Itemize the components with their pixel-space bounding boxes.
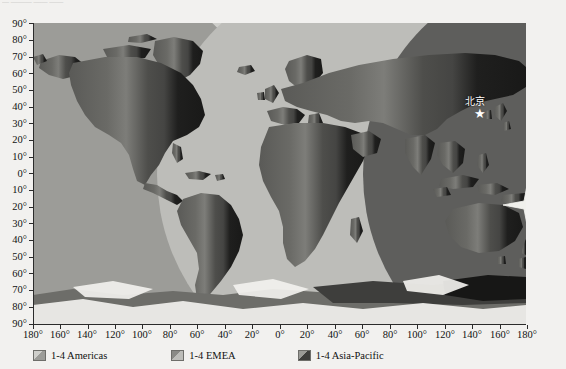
- map-legend: 1-4 Americas 1-4 EMEA 1-4 Asia-Pacific: [33, 347, 526, 363]
- legend-item-asia-pacific: 1-4 Asia-Pacific: [298, 350, 384, 361]
- map-plot-area: 北京 ★ 亚太地区卫星: [33, 23, 526, 325]
- y-tick-label: 80°: [1, 34, 27, 45]
- y-tick-label: 30°: [1, 218, 27, 229]
- x-tick-label: 180°: [510, 329, 544, 340]
- y-tick-label: 40°: [1, 234, 27, 245]
- y-tick-label: 10°: [1, 151, 27, 162]
- y-tick-label: 40°: [1, 101, 27, 112]
- y-tick-label: 30°: [1, 118, 27, 129]
- y-tick-label: 20°: [1, 201, 27, 212]
- y-tick-label: 90°: [1, 318, 27, 329]
- legend-item-emea: 1-4 EMEA: [171, 350, 235, 361]
- legend-label-americas: 1-4 Americas: [51, 350, 107, 361]
- y-tick-label: 50°: [1, 84, 27, 95]
- y-tick-label: 70°: [1, 284, 27, 295]
- legend-swatch-asia-pacific-icon: [298, 350, 311, 361]
- y-tick-label: 10°: [1, 184, 27, 195]
- y-tick-label: 0°: [1, 168, 27, 179]
- legend-swatch-americas-icon: [33, 350, 46, 361]
- world-coverage-map-figure: 北京 ★ 亚太地区卫星 90° 80° 70° 60° 50° 40° 30° …: [0, 0, 566, 369]
- beijing-star-marker: ★: [473, 107, 486, 120]
- y-tick-label: 50°: [1, 251, 27, 262]
- legend-label-emea: 1-4 EMEA: [189, 350, 235, 361]
- y-tick-label: 60°: [1, 268, 27, 279]
- y-tick-label: 20°: [1, 134, 27, 145]
- y-tick-label: 70°: [1, 51, 27, 62]
- legend-item-americas: 1-4 Americas: [33, 350, 107, 361]
- y-tick-label: 60°: [1, 68, 27, 79]
- y-tick-label: 90°: [1, 18, 27, 29]
- y-tick-label: 80°: [1, 301, 27, 312]
- landmass-layer: [33, 23, 526, 325]
- legend-label-asia-pacific: 1-4 Asia-Pacific: [316, 350, 384, 361]
- legend-swatch-emea-icon: [171, 350, 184, 361]
- satellite-star-marker: [503, 180, 526, 230]
